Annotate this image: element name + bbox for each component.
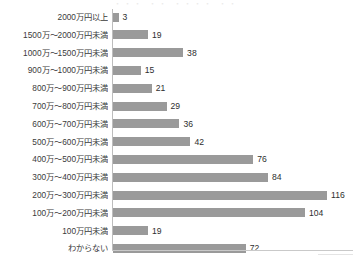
bar	[113, 226, 148, 235]
category-label: 900万〜1000万円未満	[0, 61, 108, 79]
category-label: 100万円未満	[0, 222, 108, 240]
bar-value-label: 38	[187, 44, 197, 62]
bar-chart: ・・・ ・・ ・・・・ ・・ 2000万円以上31500万〜2000万円未満19…	[0, 0, 353, 268]
bar-track: 19	[113, 26, 353, 44]
category-label: わからない	[0, 239, 108, 257]
bar-value-label: 19	[152, 26, 162, 44]
chart-row: 100万〜200万円未満104	[0, 204, 353, 222]
bar-value-label: 72	[250, 239, 260, 257]
bar-track: 21	[113, 79, 353, 97]
bar	[113, 84, 152, 93]
chart-row: 2000万円以上3	[0, 8, 353, 26]
category-label: 600万〜700万円未満	[0, 115, 108, 133]
bar-track: 42	[113, 133, 353, 151]
bar-track: 84	[113, 168, 353, 186]
bar-value-label: 76	[257, 150, 267, 168]
chart-row: 600万〜700万円未満36	[0, 115, 353, 133]
bar	[113, 13, 119, 22]
clipped-header-remnant: ・・・ ・・ ・・・・ ・・	[0, 0, 353, 7]
bar-track: 3	[113, 8, 353, 26]
bar	[113, 191, 327, 200]
chart-row: 800万〜900万円未満21	[0, 79, 353, 97]
chart-row: 1000万〜1500万円未満38	[0, 44, 353, 62]
chart-row: 400万〜500万円未満76	[0, 150, 353, 168]
bar-track: 15	[113, 61, 353, 79]
chart-row: 700万〜800万円未満29	[0, 97, 353, 115]
bar-track: 76	[113, 150, 353, 168]
category-label: 400万〜500万円未満	[0, 150, 108, 168]
bar-track: 36	[113, 115, 353, 133]
category-label: 1500万〜2000万円未満	[0, 26, 108, 44]
category-label: 800万〜900万円未満	[0, 79, 108, 97]
plot-area: 2000万円以上31500万〜2000万円未満191000万〜1500万円未満3…	[0, 9, 353, 256]
bar-track: 38	[113, 44, 353, 62]
chart-row: 500万〜600万円未満42	[0, 133, 353, 151]
category-label: 500万〜600万円未満	[0, 133, 108, 151]
value-axis-baseline	[112, 250, 353, 251]
chart-row: 300万〜400万円未満84	[0, 168, 353, 186]
bar-value-label: 116	[331, 186, 345, 204]
chart-row: 200万〜300万円未満116	[0, 186, 353, 204]
category-label: 100万〜200万円未満	[0, 204, 108, 222]
bar	[113, 30, 148, 39]
chart-row: 100万円未満19	[0, 222, 353, 240]
bar	[113, 208, 305, 217]
chart-row: 900万〜1000万円未満15	[0, 61, 353, 79]
bar	[113, 173, 268, 182]
bar-value-label: 3	[123, 8, 128, 26]
bar-value-label: 29	[171, 97, 181, 115]
category-label: 2000万円以上	[0, 8, 108, 26]
bar-value-label: 42	[194, 133, 204, 151]
bar-value-label: 15	[145, 61, 155, 79]
category-axis-line	[112, 9, 113, 250]
bar-track: 19	[113, 222, 353, 240]
chart-row: 1500万〜2000万円未満19	[0, 26, 353, 44]
bar-value-label: 36	[183, 115, 193, 133]
bar	[113, 137, 190, 146]
bar-track: 104	[113, 204, 353, 222]
category-label: 1000万〜1500万円未満	[0, 44, 108, 62]
bar-value-label: 84	[272, 168, 282, 186]
bar	[113, 119, 179, 128]
bar	[113, 102, 167, 111]
bar-track: 116	[113, 186, 353, 204]
bar-value-label: 19	[152, 222, 162, 240]
bar-value-label: 21	[156, 79, 166, 97]
category-label: 200万〜300万円未満	[0, 186, 108, 204]
bar-track: 29	[113, 97, 353, 115]
bar	[113, 48, 183, 57]
bar-track: 72	[113, 239, 353, 257]
bar-value-label: 104	[309, 204, 323, 222]
bar	[113, 66, 141, 75]
baseline-tail	[318, 254, 353, 255]
category-label: 300万〜400万円未満	[0, 168, 108, 186]
bar	[113, 244, 246, 253]
chart-row: わからない72	[0, 239, 353, 257]
category-label: 700万〜800万円未満	[0, 97, 108, 115]
bar	[113, 155, 253, 164]
